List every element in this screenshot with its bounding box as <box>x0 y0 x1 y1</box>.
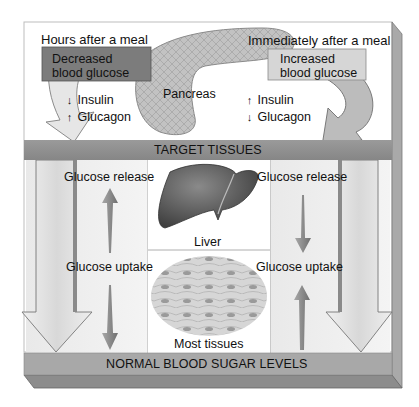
increased-line1: Increased <box>280 52 357 66</box>
arrow-up-icon: ↑ <box>245 92 254 108</box>
hormone-name: Insulin <box>257 93 293 107</box>
left-hormone-insulin: ↓ Insulin <box>65 92 114 108</box>
right-hormone-insulin: ↑ Insulin <box>245 92 294 108</box>
increased-line2: blood glucose <box>280 66 357 80</box>
most-tissues-label: Most tissues <box>174 337 243 351</box>
pancreas-label: Pancreas <box>163 87 216 101</box>
caption-immediately-after-meal: Immediately after a meal <box>248 34 390 48</box>
decreased-line2: blood glucose <box>52 66 129 80</box>
decreased-blood-glucose-box: Decreased blood glucose <box>52 52 129 80</box>
hormone-name: Glucagon <box>257 110 311 124</box>
target-tissues-band: TARGET TISSUES <box>154 143 262 157</box>
caption-hours-after-meal: Hours after a meal <box>41 33 148 47</box>
left-glucose-release: Glucose release <box>64 170 154 184</box>
right-glucose-release: Glucose release <box>257 170 347 184</box>
arrow-down-icon: ↓ <box>245 109 254 125</box>
hormone-name: Glucagon <box>77 110 131 124</box>
left-glucose-uptake: Glucose uptake <box>66 260 153 274</box>
arrow-up-icon: ↑ <box>65 109 74 125</box>
right-glucose-uptake: Glucose uptake <box>256 260 343 274</box>
normal-blood-sugar-band: NORMAL BLOOD SUGAR LEVELS <box>106 357 307 371</box>
hormone-name: Insulin <box>77 93 113 107</box>
left-hormone-glucagon: ↑ Glucagon <box>65 109 131 125</box>
decreased-line1: Decreased <box>52 52 129 66</box>
increased-blood-glucose-box: Increased blood glucose <box>280 52 357 80</box>
right-hormone-glucagon: ↓ Glucagon <box>245 109 311 125</box>
arrow-down-icon: ↓ <box>65 92 74 108</box>
liver-label: Liver <box>194 235 221 249</box>
